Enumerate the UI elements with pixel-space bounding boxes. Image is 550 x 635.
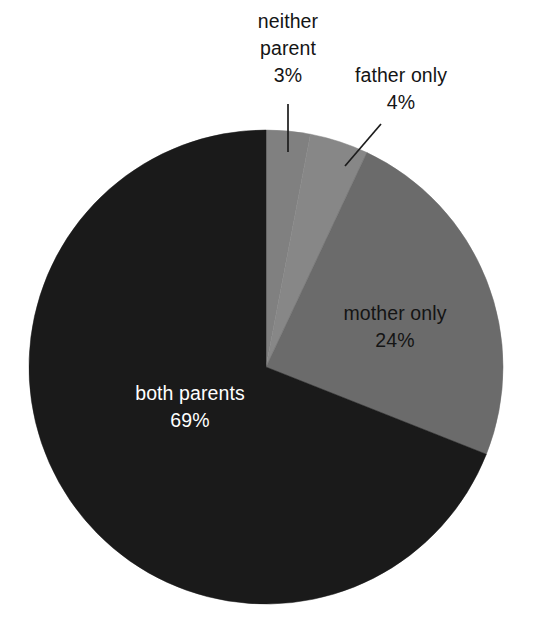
- mother-only-label-line1: mother only: [344, 302, 447, 324]
- father-only-label-line1: father only: [355, 64, 447, 86]
- both-parents-label-line1: both parents: [135, 382, 245, 404]
- mother-only-value: 24%: [375, 329, 414, 351]
- pie-chart-container: neither parent 3% father only 4% mother …: [0, 0, 550, 635]
- father-only-value: 4%: [387, 91, 415, 113]
- pie-slices-group: [29, 130, 503, 604]
- neither-parent-label-line2: parent: [260, 37, 316, 59]
- neither-parent-value: 3%: [274, 64, 302, 86]
- neither-parent-label-line1: neither: [258, 10, 319, 32]
- both-parents-value: 69%: [170, 409, 209, 431]
- pie-chart-svg: neither parent 3% father only 4% mother …: [0, 0, 550, 635]
